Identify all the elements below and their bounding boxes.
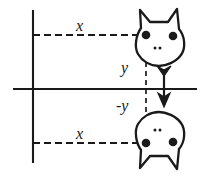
cat-nose-dot-left-upright — [154, 47, 157, 50]
cat-eye-left-reflected — [142, 139, 151, 148]
arrow-tail-fletching — [157, 66, 171, 76]
label-negative-y: -y — [116, 98, 128, 114]
label-x-top: x — [76, 18, 83, 34]
label-y: y — [121, 60, 128, 76]
cat-nose-dot-left-reflected — [154, 129, 157, 132]
cat-face-reflected — [136, 112, 184, 169]
reflection-diagram: x x y -y — [0, 0, 207, 177]
cat-nose-dot-right-upright — [159, 47, 162, 50]
cat-eye-left-upright — [142, 31, 151, 40]
cat-face-upright — [136, 9, 184, 66]
reflection-arrow-icon — [157, 66, 171, 107]
label-x-bottom: x — [76, 126, 83, 142]
cat-eye-right-reflected — [169, 138, 178, 147]
diagram-canvas — [0, 0, 207, 177]
cat-nose-dot-right-reflected — [159, 129, 162, 132]
cat-eye-right-upright — [169, 32, 178, 41]
